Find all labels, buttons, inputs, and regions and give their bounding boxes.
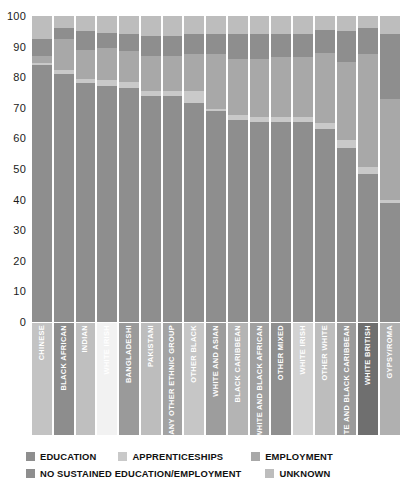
- bar-segment: [163, 96, 183, 322]
- category-label-cell[interactable]: WHITE AND ASIAN: [206, 323, 226, 435]
- category-label-cell[interactable]: WHITE AND BLACK CARIBBEAN: [337, 323, 357, 435]
- bar-column[interactable]: [119, 16, 139, 322]
- category-label: BANGLADESHI: [125, 325, 132, 383]
- category-label: OTHER BLACK: [191, 325, 198, 383]
- bar-segment: [32, 56, 52, 64]
- bar-column[interactable]: [206, 16, 226, 322]
- bar-column[interactable]: [184, 16, 204, 322]
- bar-segment: [358, 28, 378, 54]
- legend-label-unknown: UNKNOWN: [279, 468, 330, 479]
- bar-segment: [184, 91, 204, 103]
- category-label-cell[interactable]: OTHER MIXED: [271, 323, 291, 435]
- legend-label-apprenticeships: APPRENTICESHIPS: [132, 451, 223, 462]
- bar-column[interactable]: [163, 16, 183, 322]
- category-label-cell[interactable]: BANGLADESHI: [119, 323, 139, 435]
- legend-label-no-sustained: NO SUSTAINED EDUCATION/EMPLOYMENT: [40, 468, 241, 479]
- category-label: PAKISTANI: [147, 325, 154, 367]
- legend-item-education[interactable]: EDUCATION: [26, 451, 96, 462]
- bar-segment: [206, 111, 226, 322]
- legend-label-employment: EMPLOYMENT: [265, 451, 333, 462]
- category-label-cell[interactable]: OTHER WHITE: [315, 323, 335, 435]
- bar-segment: [206, 16, 226, 34]
- bar-segment: [97, 86, 117, 322]
- bar-column[interactable]: [54, 16, 74, 322]
- category-label-cell[interactable]: WHITE IRISH: [97, 323, 117, 435]
- bar-segment: [163, 56, 183, 91]
- category-label-cell[interactable]: BLACK CARIBBEAN: [228, 323, 248, 435]
- bar-column[interactable]: [250, 16, 270, 322]
- y-tick-90: 90: [13, 41, 26, 53]
- bar-segment: [358, 174, 378, 322]
- legend-item-unknown[interactable]: UNKNOWN: [265, 468, 330, 479]
- bar-column[interactable]: [76, 16, 96, 322]
- category-label-cell[interactable]: INDIAN: [76, 323, 96, 435]
- category-label-cell[interactable]: WHITE BRITISH: [358, 323, 378, 435]
- bar-column[interactable]: [271, 16, 291, 322]
- bar-segment: [380, 203, 400, 322]
- category-label-cell[interactable]: BLACK AFRICAN: [54, 323, 74, 435]
- bar-segment: [141, 56, 161, 91]
- bar-segment: [315, 30, 335, 53]
- bar-segment: [119, 51, 139, 82]
- bar-column[interactable]: [228, 16, 248, 322]
- bar-segment: [163, 36, 183, 56]
- y-tick-50: 50: [13, 163, 26, 175]
- category-label: INDIAN: [82, 325, 89, 353]
- y-tick-10: 10: [13, 285, 26, 297]
- bar-segment: [293, 57, 313, 117]
- y-tick-0: 0: [20, 316, 26, 328]
- legend-swatch-no-sustained: [26, 469, 35, 478]
- stacked-bar-chart: 1009080706050403020100 PER CENT CHINESEB…: [0, 0, 402, 486]
- category-label-cell[interactable]: CHINESE: [32, 323, 52, 435]
- bar-segment: [380, 16, 400, 34]
- category-label: WHITE AND BLACK CARIBBEAN: [343, 325, 350, 435]
- y-tick-70: 70: [13, 102, 26, 114]
- bar-segment: [76, 16, 96, 31]
- y-tick-20: 20: [13, 255, 26, 267]
- legend-item-apprenticeships[interactable]: APPRENTICESHIPS: [118, 451, 223, 462]
- bar-column[interactable]: [293, 16, 313, 322]
- category-label-cell[interactable]: PAKISTANI: [141, 323, 161, 435]
- bar-segment: [228, 59, 248, 116]
- bar-column[interactable]: [337, 16, 357, 322]
- top-clip: [0, 0, 402, 9]
- bar-segment: [358, 54, 378, 167]
- bar-segment: [119, 88, 139, 322]
- category-label-cell[interactable]: GYPSY/ROMA: [380, 323, 400, 435]
- legend-swatch-education: [26, 452, 35, 461]
- bar-column[interactable]: [141, 16, 161, 322]
- bar-column[interactable]: [315, 16, 335, 322]
- y-tick-80: 80: [13, 71, 26, 83]
- bar-segment: [250, 122, 270, 322]
- bar-segment: [184, 103, 204, 322]
- bar-segment: [271, 122, 291, 322]
- bar-column[interactable]: [380, 16, 400, 322]
- bar-segment: [380, 34, 400, 98]
- category-label-cell[interactable]: OTHER BLACK: [184, 323, 204, 435]
- legend-item-employment[interactable]: EMPLOYMENT: [251, 451, 333, 462]
- y-axis: 1009080706050403020100: [0, 16, 30, 322]
- category-label: GYPSY/ROMA: [386, 325, 393, 379]
- category-label-cell[interactable]: WHITE AND BLACK AFRICAN: [250, 323, 270, 435]
- bar-segment: [315, 129, 335, 322]
- bar-segment: [119, 16, 139, 34]
- category-label-cell[interactable]: WHITE IRISH: [293, 323, 313, 435]
- bar-segment: [315, 53, 335, 123]
- bar-segment: [184, 34, 204, 54]
- bar-segment: [250, 59, 270, 117]
- bar-segment: [54, 39, 74, 70]
- category-label: WHITE IRISH: [299, 325, 306, 374]
- bar-segment: [293, 16, 313, 34]
- bar-column[interactable]: [358, 16, 378, 322]
- bar-column[interactable]: [97, 16, 117, 322]
- bar-column[interactable]: [32, 16, 52, 322]
- category-label-cell[interactable]: ANY OTHER ETHNIC GROUP: [163, 323, 183, 435]
- y-tick-100: 100: [7, 10, 26, 22]
- bar-segment: [54, 74, 74, 322]
- legend-item-no-sustained-education-employment[interactable]: NO SUSTAINED EDUCATION/EMPLOYMENT: [26, 468, 241, 479]
- category-label: BLACK CARIBBEAN: [234, 325, 241, 403]
- bar-segment: [54, 16, 74, 28]
- bar-segment: [184, 16, 204, 34]
- bar-segment: [141, 96, 161, 322]
- bar-segment: [271, 16, 291, 34]
